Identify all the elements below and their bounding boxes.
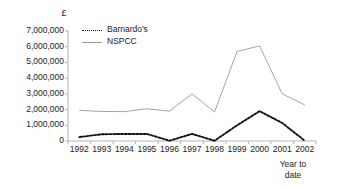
legend-label-barnardos: Barnardo's xyxy=(107,25,148,34)
x-axis-note-line1: Year to xyxy=(250,159,336,170)
x-axis-note-line2: date xyxy=(250,170,336,181)
legend-swatch-dashed-icon xyxy=(82,25,102,34)
series-line-barnardo-s xyxy=(79,111,304,141)
x-axis-tick-labels: 1992199319941995199619971998199920002001… xyxy=(68,144,320,156)
x-axis-tick-label: 2002 xyxy=(290,144,320,154)
legend-item-barnardos: Barnardo's xyxy=(82,24,202,35)
line-chart: £ 7,000,0006,000,0005,000,0004,000,0003,… xyxy=(0,0,345,188)
chart-legend: Barnardo's NSPCC xyxy=(82,24,202,48)
legend-item-nspcc: NSPCC xyxy=(82,36,202,47)
series-line-nspcc xyxy=(79,46,304,112)
legend-label-nspcc: NSPCC xyxy=(107,37,137,46)
x-axis-note: Year to date xyxy=(250,159,336,181)
legend-swatch-solid-icon xyxy=(82,37,102,46)
